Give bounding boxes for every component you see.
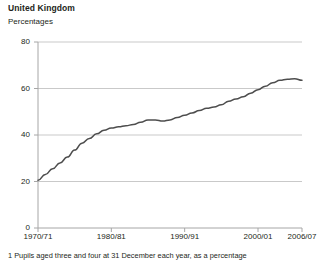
y-tick-label-40: 40	[4, 130, 30, 139]
x-tick-label-1980-81: 1980/81	[81, 232, 141, 241]
chart-figure: United Kingdom Percentages 020406080 197…	[0, 0, 317, 260]
y-tick-label-20: 20	[4, 177, 30, 186]
y-tick-label-60: 60	[4, 84, 30, 93]
x-tick-label-1990-91: 1990/91	[155, 232, 215, 241]
y-tick-label-0: 0	[4, 223, 30, 232]
y-tick-label-80: 80	[4, 37, 30, 46]
chart-plot-area	[0, 0, 317, 260]
gridlines	[38, 42, 302, 228]
axis-ticks	[34, 42, 302, 232]
data-line-series-0	[38, 79, 302, 181]
x-tick-label-1970-71: 1970/71	[8, 232, 68, 241]
chart-footnote: 1 Pupils aged three and four at 31 Decem…	[8, 251, 317, 260]
x-tick-label-2006-07: 2006/07	[272, 232, 317, 241]
